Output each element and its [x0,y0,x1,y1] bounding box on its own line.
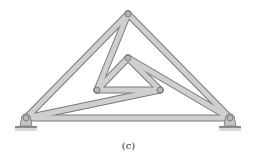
figure-caption: (c) [0,140,257,151]
joint-e [94,87,100,93]
joint-d [125,55,131,61]
joint-c [125,11,131,17]
joint-f [157,87,163,93]
truss-diagram [0,0,257,162]
members [26,14,230,118]
